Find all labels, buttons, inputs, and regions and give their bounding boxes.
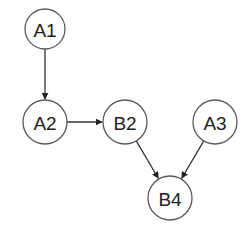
node-label: B2	[113, 113, 136, 134]
edge-a3-to-b4	[182, 141, 204, 178]
node-a2: A2	[23, 100, 67, 144]
nodes-group: A1A2B2A3B4	[23, 9, 237, 220]
graph-diagram: A1A2B2A3B4	[0, 0, 252, 231]
node-a3: A3	[193, 100, 237, 144]
node-label: A3	[203, 113, 226, 134]
node-a1: A1	[25, 9, 65, 49]
node-label: A2	[33, 113, 56, 134]
node-b4: B4	[148, 176, 192, 220]
node-b2: B2	[103, 100, 147, 144]
edge-b2-to-b4	[136, 141, 158, 178]
node-label: B4	[158, 189, 182, 210]
node-label: A1	[33, 20, 56, 41]
